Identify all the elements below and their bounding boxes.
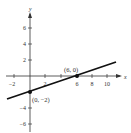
svg-text:6: 6 [76,81,79,87]
y-axis-arrow-icon [28,12,32,18]
x-axis-label: x [123,74,127,80]
point-label-0-neg2: (0, −2) [32,96,50,104]
svg-text:6: 6 [23,25,26,31]
svg-text:2: 2 [23,57,26,63]
data-line [7,62,116,99]
svg-text:4: 4 [23,41,26,47]
point-label-6-0: (6, 0) [64,66,78,74]
svg-text:10: 10 [104,81,110,87]
svg-text:−6: −6 [20,121,26,127]
y-axis-label: y [28,6,32,12]
point-6-0 [75,74,79,78]
line-chart: x y −2 2 6 8 10 6 4 2 −4 −6 (6, 0) [0,0,131,133]
svg-text:−4: −4 [20,105,26,111]
svg-text:8: 8 [91,81,94,87]
svg-text:−2: −2 [9,81,15,87]
x-axis-arrow-icon [116,74,122,78]
point-0-neg2 [28,90,32,94]
